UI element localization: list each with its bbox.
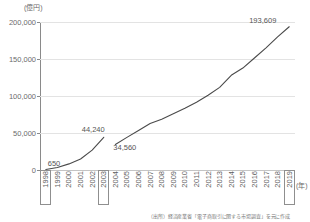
x-axis-label-text: 2019 <box>284 171 295 188</box>
y-axis-tick-label: 150,000 <box>9 55 36 64</box>
x-axis-label-2003: 2003 <box>98 170 109 205</box>
x-axis-label-text: 2007 <box>145 171 156 188</box>
x-axis-label-2006: 2006 <box>133 171 144 205</box>
data-label-peak-2003: 44,240 <box>82 125 105 134</box>
x-axis-label-2014: 2014 <box>226 171 237 205</box>
plot-area: 050,000100,000150,000200,000 65044,24034… <box>40 22 295 170</box>
x-axis-label-2000: 2000 <box>63 171 74 205</box>
x-axis-label-2011: 2011 <box>191 171 202 205</box>
chart-container: (億円) 050,000100,000150,000200,000 65044,… <box>0 0 310 222</box>
x-axis-label-2019: 2019 <box>284 170 295 205</box>
y-axis-unit-label: (億円) <box>24 2 43 12</box>
x-axis-label-1999: 1999 <box>52 171 63 205</box>
x-axis-label-text: 2006 <box>133 171 144 188</box>
x-axis-label-2018: 2018 <box>272 171 283 205</box>
x-axis-label-text: 2000 <box>63 171 74 188</box>
x-axis-label-2002: 2002 <box>87 171 98 205</box>
x-axis-label-2010: 2010 <box>179 171 190 205</box>
data-label-end-2019: 193,609 <box>249 16 276 25</box>
x-axis-label-text: 2013 <box>214 171 225 188</box>
y-axis-tick-label: 200,000 <box>9 18 36 27</box>
x-axis-label-1998: 1998 <box>40 170 51 205</box>
x-axis-label-text: 2016 <box>249 171 260 188</box>
y-axis-tick-label: 50,000 <box>13 129 36 138</box>
x-axis-label-2013: 2013 <box>214 171 225 205</box>
y-axis-tick-label: 100,000 <box>9 92 36 101</box>
data-label-start-1998: 650 <box>48 159 61 168</box>
x-axis-label-text: 2009 <box>168 171 179 188</box>
x-axis-label-2004: 2004 <box>110 171 121 205</box>
x-axis-label-text: 2011 <box>191 171 202 187</box>
x-axis-label-2005: 2005 <box>121 171 132 205</box>
x-axis-label-2009: 2009 <box>168 171 179 205</box>
y-axis-tick-label: 0 <box>32 166 36 175</box>
data-label-rebase-2004: 34,560 <box>113 143 136 152</box>
x-axis-label-text: 1999 <box>52 171 63 188</box>
x-axis-label-2001: 2001 <box>75 171 86 205</box>
x-axis-label-text: 2015 <box>237 171 248 188</box>
x-axis-label-text: 2018 <box>272 171 283 188</box>
x-axis-label-2017: 2017 <box>261 171 272 205</box>
x-axis-label-text: 2008 <box>156 171 167 188</box>
x-axis-label-text: 2010 <box>179 171 190 188</box>
series-line-1 <box>115 27 289 145</box>
source-note: （出所）経済産業省「電子商取引に関する市場調査」を元に作成 <box>148 212 290 219</box>
x-axis-label-2016: 2016 <box>249 171 260 205</box>
x-axis-label-text: 2012 <box>203 171 214 188</box>
x-axis-label-text: 2001 <box>75 171 86 188</box>
x-axis-label-text: 2014 <box>226 171 237 188</box>
x-axis-labels: 1998199920002001200220032004200520062007… <box>40 171 295 209</box>
x-axis-label-text: 1998 <box>40 171 51 188</box>
x-axis-label-2007: 2007 <box>145 171 156 205</box>
x-axis-label-2015: 2015 <box>237 171 248 205</box>
x-axis-label-2008: 2008 <box>156 171 167 205</box>
x-axis-label-text: 2005 <box>121 171 132 188</box>
x-axis-label-text: 2003 <box>98 171 109 188</box>
x-axis-unit-label: (年) <box>296 180 308 190</box>
x-axis-label-text: 2017 <box>261 171 272 188</box>
series-line-group <box>40 22 295 170</box>
x-axis-label-2012: 2012 <box>203 171 214 205</box>
x-axis-label-text: 2002 <box>87 171 98 188</box>
x-axis-label-text: 2004 <box>110 171 121 188</box>
